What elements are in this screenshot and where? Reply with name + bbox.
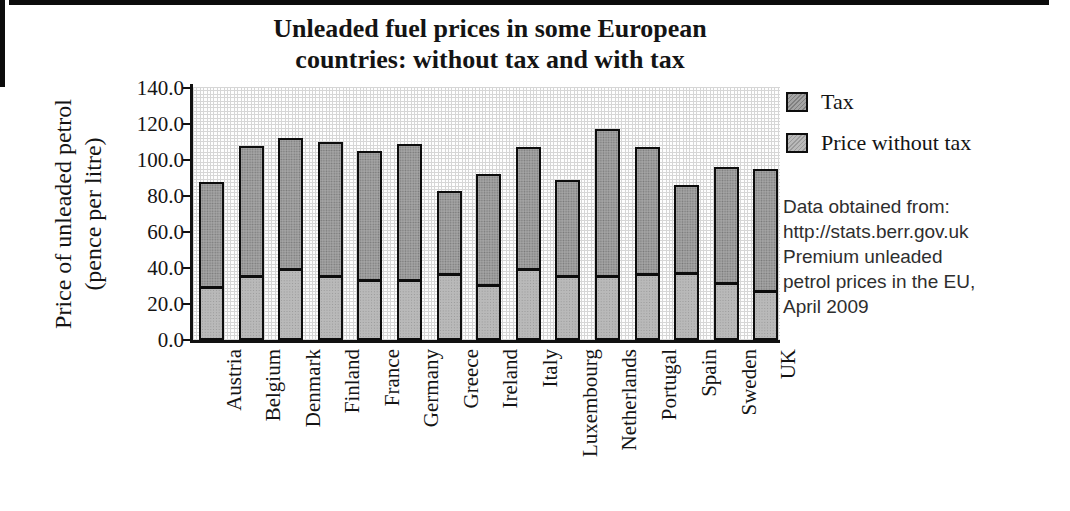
bar-segment-tax-uk <box>755 171 776 290</box>
y-tick-mark-0.0 <box>183 339 191 341</box>
source-note-line2: http://stats.berr.gov.uk <box>783 219 1063 244</box>
bar-denmark <box>278 138 303 340</box>
bar-segment-tax-portugal <box>637 149 658 273</box>
bar-sweden <box>714 167 739 340</box>
bar-segment-price-without-tax-uk <box>755 290 776 338</box>
y-tick-label-120.0: 120.0 <box>92 112 184 136</box>
y-tick-mark-120.0 <box>183 123 191 125</box>
bar-segment-price-without-tax-spain <box>676 272 697 338</box>
bar-segment-tax-germany <box>399 146 420 279</box>
chart-figure: Unleaded fuel prices in some European co… <box>0 0 1070 511</box>
x-axis-label-uk: UK <box>777 349 799 379</box>
bar-segment-price-without-tax-greece <box>439 273 460 338</box>
legend-label-tax: Tax <box>821 90 854 114</box>
legend-swatch-tax <box>786 92 808 112</box>
chart-title-line2: countries: without tax and with tax <box>150 44 830 75</box>
bar-france <box>357 151 382 340</box>
y-tick-mark-140.0 <box>183 87 191 89</box>
x-axis-label-denmark: Denmark <box>302 349 324 427</box>
bar-segment-tax-netherlands <box>597 131 618 275</box>
source-note-line3: Premium unleaded <box>783 244 1063 269</box>
y-tick-mark-80.0 <box>183 195 191 197</box>
bar-segment-price-without-tax-italy <box>518 268 539 338</box>
bar-austria <box>199 182 224 340</box>
x-axis-label-spain: Spain <box>698 349 720 397</box>
x-axis-label-germany: Germany <box>421 349 443 427</box>
bar-finland <box>318 142 343 340</box>
y-tick-label-0.0: 0.0 <box>92 328 184 352</box>
chart-title: Unleaded fuel prices in some European co… <box>150 13 830 75</box>
y-tick-mark-100.0 <box>183 159 191 161</box>
bar-segment-price-without-tax-austria <box>201 286 222 338</box>
bar-uk <box>753 169 778 340</box>
bar-netherlands <box>595 129 620 340</box>
source-note-line5: April 2009 <box>783 294 1063 319</box>
y-tick-label-100.0: 100.0 <box>92 148 184 172</box>
source-note-line4: petrol prices in the EU, <box>783 269 1063 294</box>
bar-segment-tax-luxembourg <box>557 182 578 275</box>
bar-segment-price-without-tax-portugal <box>637 273 658 338</box>
bar-luxembourg <box>555 180 580 340</box>
bar-segment-price-without-tax-luxembourg <box>557 275 578 338</box>
y-tick-label-80.0: 80.0 <box>92 184 184 208</box>
bar-belgium <box>239 146 264 340</box>
source-note-line1: Data obtained from: <box>783 194 1063 219</box>
x-axis-line <box>190 340 780 343</box>
y-tick-mark-60.0 <box>183 231 191 233</box>
bar-segment-tax-greece <box>439 193 460 274</box>
y-tick-mark-20.0 <box>183 303 191 305</box>
y-tick-label-140.0: 140.0 <box>92 76 184 100</box>
x-axis-label-sweden: Sweden <box>737 349 759 416</box>
plot-area <box>193 87 780 340</box>
x-axis-label-luxembourg: Luxembourg <box>579 349 601 457</box>
chart-title-line1: Unleaded fuel prices in some European <box>150 13 830 44</box>
y-tick-label-20.0: 20.0 <box>92 292 184 316</box>
bar-germany <box>397 144 422 340</box>
y-tick-mark-40.0 <box>183 267 191 269</box>
bar-segment-price-without-tax-france <box>359 279 380 338</box>
bar-ireland <box>476 174 501 340</box>
bar-greece <box>437 191 462 340</box>
legend-label-price-without-tax: Price without tax <box>821 131 971 155</box>
bar-segment-price-without-tax-ireland <box>478 284 499 338</box>
scan-edge-top <box>9 0 1049 5</box>
x-axis-label-austria: Austria <box>223 349 245 411</box>
source-note: Data obtained from: http://stats.berr.go… <box>783 194 1063 319</box>
y-axis-title-line1: Price of unleaded petrol <box>48 99 78 329</box>
bar-segment-tax-sweden <box>716 169 737 282</box>
bar-segment-tax-france <box>359 153 380 279</box>
bar-segment-price-without-tax-netherlands <box>597 275 618 338</box>
scan-edge-left <box>0 0 5 87</box>
x-axis-label-ireland: Ireland <box>500 349 522 408</box>
bar-segment-tax-belgium <box>241 148 262 276</box>
bar-spain <box>674 185 699 340</box>
x-axis-label-netherlands: Netherlands <box>619 349 641 450</box>
bar-segment-tax-finland <box>320 144 341 275</box>
bar-segment-price-without-tax-sweden <box>716 282 737 338</box>
bar-segment-tax-spain <box>676 187 697 271</box>
legend-swatch-price-without-tax <box>786 133 808 153</box>
x-axis-label-france: France <box>381 349 403 406</box>
x-axis-label-finland: Finland <box>341 349 363 413</box>
x-axis-label-portugal: Portugal <box>658 349 680 420</box>
bar-segment-tax-ireland <box>478 176 499 284</box>
bar-segment-tax-denmark <box>280 140 301 268</box>
bar-segment-price-without-tax-finland <box>320 275 341 338</box>
bar-segment-tax-italy <box>518 149 539 268</box>
x-axis-label-belgium: Belgium <box>262 349 284 421</box>
x-axis-label-italy: Italy <box>539 349 561 387</box>
bar-segment-price-without-tax-germany <box>399 279 420 338</box>
bar-italy <box>516 147 541 340</box>
bar-segment-price-without-tax-denmark <box>280 268 301 338</box>
x-axis-label-greece: Greece <box>460 349 482 408</box>
bar-segment-price-without-tax-belgium <box>241 275 262 338</box>
bar-portugal <box>635 147 660 340</box>
bar-segment-tax-austria <box>201 184 222 286</box>
y-tick-label-40.0: 40.0 <box>92 256 184 280</box>
y-tick-label-60.0: 60.0 <box>92 220 184 244</box>
